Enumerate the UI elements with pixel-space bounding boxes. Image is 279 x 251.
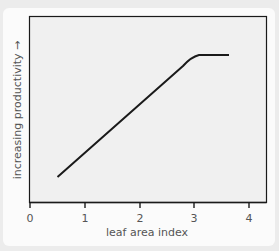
plot-area	[30, 17, 267, 203]
x-tick-label-2: 2	[137, 212, 144, 225]
x-tick-label-1: 1	[82, 212, 89, 225]
x-tick-label-0: 0	[27, 212, 34, 225]
x-tick-label-3: 3	[191, 212, 198, 225]
x-tick-label-4: 4	[246, 212, 253, 225]
y-axis-label: increasing productivity →	[11, 41, 24, 180]
x-axis-label: leaf area index	[106, 226, 189, 239]
chart-svg: 0 1 2 3 4 leaf area index increasing pro…	[0, 0, 279, 251]
